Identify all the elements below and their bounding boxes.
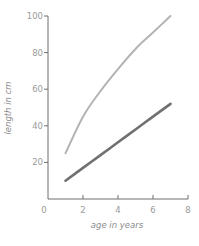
y-tick-label: 40: [32, 121, 43, 131]
axes: 2040608010002468: [27, 11, 191, 215]
y-tick-label: 20: [32, 157, 43, 167]
x-tick-label: 4: [115, 205, 120, 215]
x-tick-label: 0: [41, 205, 46, 215]
y-tick-label: 60: [32, 84, 43, 94]
series-group: [66, 16, 171, 181]
x-axis-label: age in years: [91, 220, 144, 230]
y-axis-label: length in cm: [3, 81, 13, 134]
x-tick-label: 6: [150, 205, 155, 215]
line-chart: 2040608010002468 age in years length in …: [0, 0, 199, 246]
y-tick-label: 100: [27, 11, 43, 21]
x-tick-label: 2: [80, 205, 85, 215]
upper-series-line: [66, 16, 171, 153]
x-tick-label: 8: [185, 205, 190, 215]
lower-series-line: [66, 104, 171, 181]
y-tick-label: 80: [32, 48, 43, 58]
